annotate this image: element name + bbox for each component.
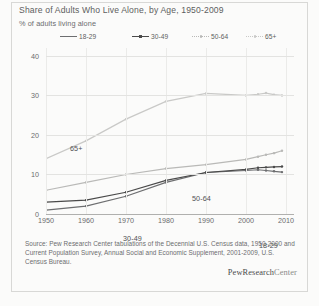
point-50-64-2009: [281, 150, 283, 152]
x-axis-baseline: [46, 214, 294, 215]
gridline-y-20: [46, 135, 294, 136]
point-50-64-2005: [265, 154, 267, 156]
point-65+-2005: [265, 92, 267, 94]
y-tick-30: 30: [31, 91, 39, 100]
source-note: Source: Pew Research Center tabulations …: [25, 239, 297, 267]
chart-card: Share of Adults Who Live Alone, by Age, …: [0, 0, 319, 306]
y-axis: 010203040: [0, 48, 44, 214]
point-50-64-2007: [273, 152, 275, 154]
gridline-y-40: [46, 56, 294, 57]
legend-marker-30-49: [139, 35, 142, 38]
point-30-49-2005: [265, 166, 267, 168]
point-30-49-2007: [273, 166, 275, 168]
inline-label-65+: 65+: [70, 144, 83, 153]
inline-label-50-64: 50-64: [192, 194, 211, 203]
legend-label-18-29: 18-29: [79, 33, 96, 40]
gridline-y-30: [46, 95, 294, 96]
chart-legend: 18-2930-4950-6465+: [60, 31, 270, 42]
gridline-x-1980: [166, 48, 167, 214]
x-tick-1980: 1980: [158, 216, 174, 225]
plot-area: 65+50-6430-4918-29: [46, 48, 294, 214]
legend-item-65+[interactable]: 65+: [246, 31, 277, 42]
point-18-29-2007: [273, 170, 275, 172]
point-18-29-2005: [265, 169, 267, 171]
brand-pew: PewResearch: [228, 268, 274, 277]
legend-swatch-18-29: [60, 36, 77, 37]
y-tick-40: 40: [31, 51, 39, 60]
legend-dot-50-64: [200, 35, 202, 37]
point-30-49-2003: [257, 167, 259, 169]
x-tick-1990: 1990: [198, 216, 214, 225]
gridline-y-10: [46, 174, 294, 175]
legend-dot-65+: [254, 35, 256, 37]
point-18-29-2009: [281, 171, 283, 173]
y-tick-10: 10: [31, 170, 39, 179]
y-tick-20: 20: [31, 130, 39, 139]
chart-title: Share of Adults Who Live Alone, by Age, …: [19, 5, 309, 15]
x-tick-1970: 1970: [118, 216, 134, 225]
legend-item-30-49[interactable]: 30-49: [132, 31, 168, 42]
x-tick-1950: 1950: [38, 216, 54, 225]
point-50-64-2003: [257, 155, 259, 157]
x-tick-1960: 1960: [78, 216, 94, 225]
series-lines: [46, 48, 294, 214]
legend-item-50-64[interactable]: 50-64: [192, 31, 228, 42]
point-30-49-2009: [281, 165, 283, 167]
x-tick-2010: 2010: [278, 216, 294, 225]
chart-subtitle: % of adults living alone: [19, 19, 309, 28]
brand-center: Center: [274, 268, 297, 277]
gridline-x-1970: [126, 48, 127, 214]
pew-research-center-logo: PewResearchCenter: [228, 268, 297, 277]
legend-label-30-49: 30-49: [151, 33, 168, 40]
legend-label-50-64: 50-64: [211, 33, 228, 40]
legend-item-18-29[interactable]: 18-29: [60, 31, 96, 42]
x-axis: 1950196019701980199020002010: [46, 216, 296, 228]
x-tick-2000: 2000: [238, 216, 254, 225]
gridline-x-1960: [86, 48, 87, 214]
gridline-x-2010: [286, 48, 287, 214]
legend-label-65+: 65+: [265, 33, 277, 40]
gridline-x-2000: [246, 48, 247, 214]
gridline-x-1950: [46, 48, 47, 214]
gridline-x-1990: [206, 48, 207, 214]
